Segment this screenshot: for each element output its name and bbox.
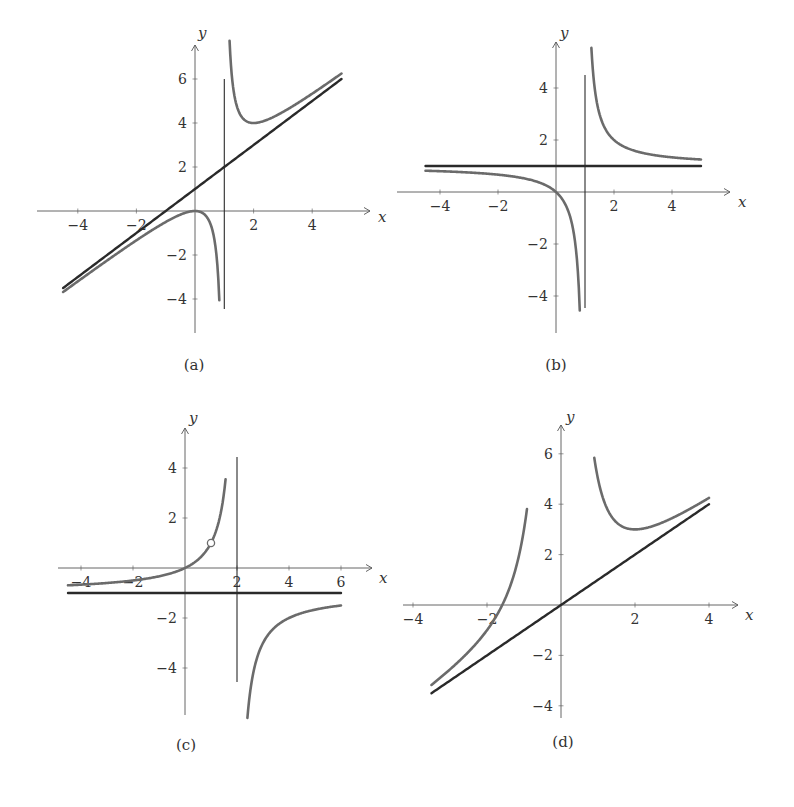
function-curve [247,606,341,719]
x-tick-label: 4 [668,198,677,214]
x-tick-label: 2 [610,198,619,214]
panel-a: −4−224−4−2246xy(a) [37,24,387,374]
x-tick-label: −2 [488,198,509,214]
function-curve [594,458,709,530]
y-tick-label: −4 [532,698,553,714]
y-tick-label: 2 [544,547,553,563]
y-tick-label: −2 [527,236,548,252]
x-tick-label: 2 [249,217,258,233]
panel-caption: (c) [176,736,196,754]
function-curve [68,479,226,585]
panel-caption: (b) [545,356,566,374]
figure-four-panel-rational-graphs: −4−224−4−2246xy(a)−4−224−4−224xy(b)−4−22… [0,0,794,807]
x-tick-label: 6 [337,574,346,590]
x-tick-label: 2 [631,611,640,627]
y-tick-label: 4 [539,80,548,96]
y-tick-label: 4 [178,115,187,131]
y-axis-label: y [197,24,207,42]
y-tick-label: 6 [544,446,553,462]
y-axis-label: y [565,408,575,426]
y-tick-label: −4 [166,291,187,307]
y-tick-label: −2 [156,610,177,626]
panel-d: −4−224−4−2246xy(d) [403,408,754,751]
x-tick-label: −4 [71,574,92,590]
x-axis-label: x [379,569,388,587]
y-tick-label: −4 [527,288,548,304]
x-tick-label: 4 [705,611,714,627]
y-tick-label: −2 [166,247,187,263]
x-tick-label: −4 [430,198,451,214]
panel-c: −4−2246−4−224xy(c) [58,409,388,754]
x-axis-label: x [745,606,754,624]
y-tick-label: 2 [539,132,548,148]
y-tick-label: 6 [178,71,187,87]
function-curve [591,48,701,160]
x-tick-label: −2 [126,217,147,233]
x-tick-label: −4 [403,611,424,627]
hole-open-circle-icon [207,539,214,546]
y-tick-label: 4 [168,460,177,476]
oblique-asymptote-line [432,504,710,693]
panel-caption: (d) [552,733,573,751]
y-tick-label: 4 [544,496,553,512]
x-axis-label: x [738,193,747,211]
y-axis-label: y [188,409,198,427]
y-tick-label: 2 [178,159,187,175]
x-tick-label: 4 [285,574,294,590]
x-tick-label: −4 [67,217,88,233]
function-curve [432,509,527,685]
function-curve [230,41,342,123]
y-tick-label: −2 [532,647,553,663]
x-tick-label: 4 [308,217,317,233]
y-tick-label: −4 [156,660,177,676]
panel-b: −4−224−4−224xy(b) [397,24,747,374]
panel-caption: (a) [184,356,205,374]
oblique-asymptote-line [63,79,341,288]
y-axis-label: y [559,24,569,42]
y-tick-label: 2 [168,510,177,526]
x-axis-label: x [378,208,387,226]
